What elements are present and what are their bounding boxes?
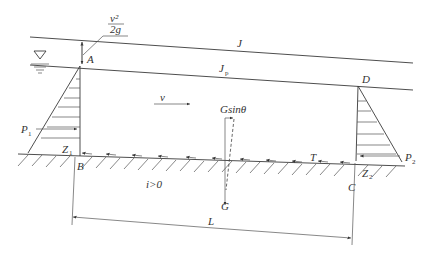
gravity-component-line [226,119,234,190]
point-a: A [86,53,94,65]
length-arrow-right [200,227,351,238]
extension-line-b [72,157,75,225]
point-d: D [361,73,370,85]
length-arrow-left [73,217,200,227]
hydraulics-diagram: v² 2g J J p A D v P 1 P 2 [0,0,427,257]
slope-label: i>0 [146,178,162,190]
point-b: B [77,160,84,172]
svg-text:2: 2 [412,158,416,166]
pressure-right-label: P [404,151,412,163]
velocity-label: v [160,91,165,103]
extension-line-c [352,163,355,245]
velocity-head-denominator: 2g [110,23,122,35]
friction-label: T [310,151,317,163]
pressure-left-label: P [20,123,28,135]
point-c: C [348,181,356,193]
gravity-component-label: Gsinθ [220,103,247,115]
svg-text:1: 1 [28,130,32,138]
elev-right-label: Z [362,167,369,179]
energy-line-label: J [237,37,243,49]
svg-text:p: p [225,69,229,77]
left-pressure-distribution [28,66,80,156]
elev-left-label: Z [62,143,69,155]
gravity-label: G [221,200,229,212]
svg-text:2: 2 [369,173,373,181]
svg-text:1: 1 [69,149,73,157]
right-pressure-distribution [356,86,402,162]
length-label: L [207,215,214,227]
free-surface-icon [31,51,49,73]
